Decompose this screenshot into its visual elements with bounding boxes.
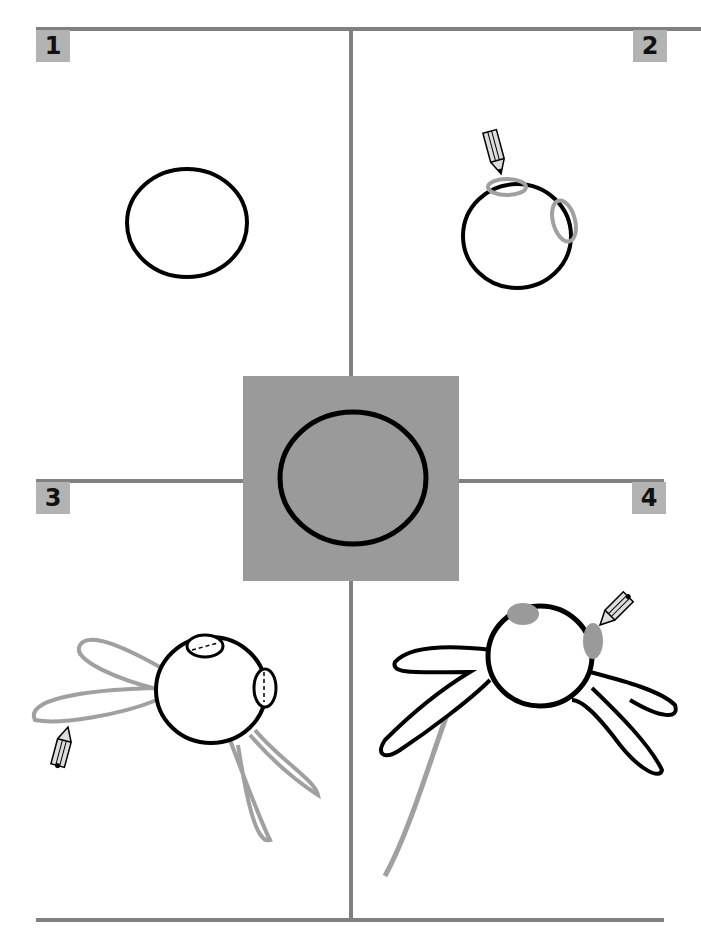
pencil-icon [483, 130, 508, 176]
step-2-drawing [463, 130, 580, 288]
step-3-drawing [34, 635, 318, 840]
pencil-icon [50, 725, 75, 770]
center-circle [280, 412, 426, 544]
step-4-drawing [381, 590, 676, 876]
pencil-icon [595, 590, 635, 630]
step-1-circle [127, 169, 247, 277]
drawing-canvas [0, 0, 701, 943]
